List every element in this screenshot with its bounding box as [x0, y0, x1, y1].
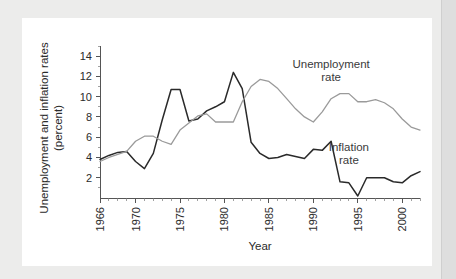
x-tick-label: 2000 — [396, 207, 408, 231]
x-tick-label: 1966 — [94, 207, 106, 231]
y-axis-title: Unemployment and inflation rates (percen… — [38, 42, 64, 214]
y-tick-label: 10 — [80, 91, 92, 103]
series-label-inflation-rate-line2: rate — [339, 154, 359, 166]
x-tick-label: 1990 — [307, 207, 319, 231]
line-chart: 2468101214 19661970197519801985199019952… — [22, 18, 432, 266]
series-unemployment-rate — [100, 79, 420, 161]
y-axis-ticks: 2468101214 — [80, 46, 100, 188]
chart-series — [100, 72, 420, 196]
x-axis-title: Year — [248, 240, 271, 252]
x-tick-label: 1975 — [174, 207, 186, 231]
y-tick-label: 14 — [80, 50, 92, 62]
screenshot-page: 2468101214 19661970197519801985199019952… — [0, 0, 456, 279]
x-tick-label: 1995 — [352, 207, 364, 231]
y-tick-label: 8 — [86, 111, 92, 123]
x-tick-label: 1980 — [218, 207, 230, 231]
y-axis-title-line1: Unemployment and inflation rates — [38, 42, 50, 214]
series-label-inflation-rate-line1: Inflation — [329, 141, 369, 153]
x-axis-ticks: 19661970197519801985199019952000 — [94, 198, 420, 231]
x-tick-label: 1970 — [130, 207, 142, 231]
y-tick-label: 12 — [80, 70, 92, 82]
y-tick-label: 4 — [86, 151, 92, 163]
x-tick-label: 1985 — [263, 207, 275, 231]
page-edge-strip — [441, 0, 456, 279]
chart-axes — [100, 46, 420, 198]
y-axis-title-line2: (percent) — [52, 105, 64, 151]
figure-card: 2468101214 19661970197519801985199019952… — [22, 18, 432, 266]
chart-svg: 2468101214 19661970197519801985199019952… — [22, 18, 432, 266]
series-label-unemployment-rate-line1: Unemployment — [292, 58, 370, 70]
series-annotations: InflationrateUnemploymentrate — [292, 58, 370, 166]
series-inflation-rate — [100, 72, 420, 196]
y-tick-label: 2 — [86, 172, 92, 184]
series-label-unemployment-rate-line2: rate — [321, 71, 341, 83]
y-tick-label: 6 — [86, 131, 92, 143]
